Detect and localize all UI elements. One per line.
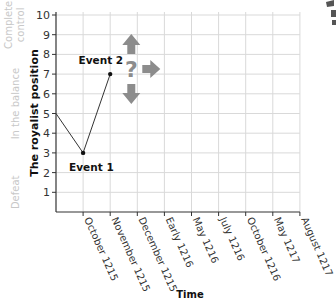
data-point bbox=[81, 151, 85, 155]
x-tick-label: July 1216 bbox=[217, 214, 246, 262]
arrow-right-icon bbox=[142, 60, 160, 78]
y-tick-label: 7 bbox=[43, 68, 50, 81]
chart: CompletecontrolIn the balanceDefeat 1234… bbox=[0, 0, 336, 299]
data-point bbox=[108, 72, 112, 76]
x-tick-label: May 1216 bbox=[191, 215, 221, 265]
y-tick-label: 10 bbox=[36, 9, 50, 22]
y-tick-label: 4 bbox=[43, 127, 50, 140]
x-tick-label: August 1217 bbox=[299, 215, 335, 278]
axes: 12345678910October 1215November 1215Dece… bbox=[36, 9, 335, 293]
y-tick-label: 6 bbox=[43, 88, 50, 101]
band-labels: CompletecontrolIn the balanceDefeat bbox=[3, 1, 26, 209]
band-label: Complete bbox=[3, 1, 14, 49]
y-tick-label: 5 bbox=[43, 108, 50, 121]
y-tick-label: 9 bbox=[43, 29, 50, 42]
x-axis-label: Time bbox=[176, 289, 204, 299]
band-label: control bbox=[15, 8, 26, 43]
question-mark: ? bbox=[125, 57, 138, 82]
annotation-label: Event 2 bbox=[79, 54, 124, 66]
band-label: In the balance bbox=[10, 68, 21, 139]
y-axis-label: The royalist position bbox=[28, 49, 41, 177]
x-tick-label: Early 1216 bbox=[164, 215, 196, 269]
grid bbox=[56, 12, 300, 212]
y-tick-label: 2 bbox=[43, 167, 50, 180]
y-tick-label: 1 bbox=[43, 186, 50, 199]
corner-glyph-icon bbox=[326, 0, 336, 25]
band-label: Defeat bbox=[10, 175, 21, 209]
x-tick-label: May 1217 bbox=[272, 215, 302, 265]
y-tick-label: 8 bbox=[43, 48, 50, 61]
annotation-label: Event 1 bbox=[69, 161, 114, 173]
y-tick-label: 3 bbox=[43, 147, 50, 160]
